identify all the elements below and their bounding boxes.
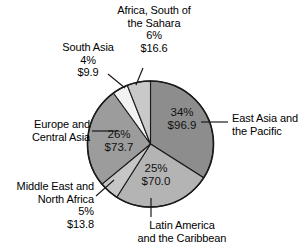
callout-mena-line1: Middle East and [2, 180, 94, 193]
slice-value-latam-amount: $70.0 [125, 175, 187, 188]
callout-mena-value: $13.8 [2, 218, 94, 231]
callout-africa-percent: 6% [98, 29, 210, 42]
callout-south-asia-value: $9.9 [36, 66, 140, 79]
callout-south-asia-line1: South Asia [36, 41, 140, 54]
slice-value-east-asia-percent: 34% [151, 106, 213, 119]
slice-value-east-asia: 34% $96.9 [151, 106, 213, 132]
slice-value-europe: 26% $73.7 [88, 128, 150, 154]
callout-latam-line1: Latin America [116, 219, 248, 232]
callout-east-asia-line2: the Pacific [232, 125, 304, 138]
callout-south-asia-percent: 4% [36, 54, 140, 67]
slice-value-east-asia-amount: $96.9 [151, 119, 213, 132]
callout-europe-line1: Europe and [2, 118, 90, 131]
slice-value-latam: 25% $70.0 [125, 162, 187, 188]
slice-value-europe-amount: $73.7 [88, 141, 150, 154]
callout-africa-line2: the Sahara [98, 17, 210, 30]
callout-east-asia: East Asia and the Pacific [232, 112, 304, 137]
callout-east-asia-line1: East Asia and [232, 112, 304, 125]
callout-latam: Latin America and the Caribbean [116, 219, 248, 244]
pie-chart: Africa, South of the Sahara 6% $16.6 Sou… [0, 0, 304, 249]
callout-europe-line2: Central Asia [2, 131, 90, 144]
callout-europe: Europe and Central Asia [2, 118, 90, 143]
callout-mena: Middle East and North Africa 5% $13.8 [2, 180, 94, 230]
slice-value-latam-percent: 25% [125, 162, 187, 175]
callout-mena-percent: 5% [2, 205, 94, 218]
slice-value-europe-percent: 26% [88, 128, 150, 141]
callout-mena-line2: North Africa [2, 193, 94, 206]
callout-south-asia: South Asia 4% $9.9 [36, 41, 140, 79]
callout-latam-line2: and the Caribbean [116, 232, 248, 245]
callout-africa-line1: Africa, South of [98, 4, 210, 17]
